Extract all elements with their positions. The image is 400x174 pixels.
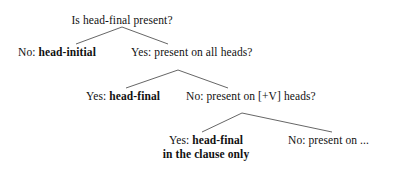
edge-plus-v-to-clause-only [202,113,242,132]
node-yes-head-final-label: head-final [109,90,160,102]
node-yes-head-final-clause-lead: Yes: [169,134,192,146]
node-no-plus-v-heads: No: present on [+V] heads? [186,89,316,103]
edge-root-to-head-initial [76,27,122,44]
node-yes-head-final-lead: Yes: [86,90,109,102]
edge-all-heads-to-head-final [126,70,178,88]
node-root-question: Is head-final present? [71,13,172,27]
node-root-question-text: Is head-final present? [71,14,172,26]
node-yes-head-final-clause-line2: in the clause only [163,147,249,161]
node-yes-all-heads-text: Yes: present on all heads? [131,46,253,58]
node-no-head-initial-label: head-initial [39,46,96,58]
node-no-present-on-etc-text: No: present on ... [288,134,369,146]
edge-all-heads-to-plus-v [178,70,228,88]
node-yes-head-final-clause: Yes: head-final in the clause only [163,133,249,161]
node-no-head-initial-lead: No: [18,46,39,58]
node-no-plus-v-heads-text: No: present on [+V] heads? [186,90,316,102]
node-no-present-on-etc: No: present on ... [288,133,369,147]
node-yes-head-final-clause-label: head-final [192,134,243,146]
decision-tree-figure: Is head-final present? No: head-initial … [0,0,400,174]
edge-plus-v-to-present-on [242,113,332,132]
node-no-head-initial: No: head-initial [18,45,96,59]
edge-root-to-all-heads [122,27,168,44]
node-yes-head-final: Yes: head-final [86,89,160,103]
node-yes-all-heads: Yes: present on all heads? [131,45,253,59]
